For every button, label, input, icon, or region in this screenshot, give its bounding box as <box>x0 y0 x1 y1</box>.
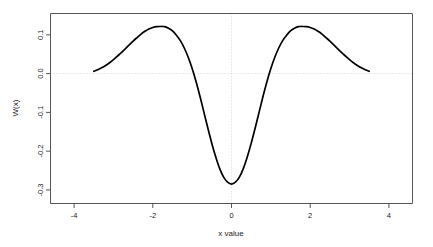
x-axis-title: x value <box>218 229 244 238</box>
chart-container: -4-2024 0.10.0-0.1-0.2-0.3 x value W(x) <box>0 0 433 247</box>
chart-background <box>0 0 433 247</box>
x-tick-label: 2 <box>308 211 312 220</box>
y-tick-label: -0.3 <box>36 183 45 196</box>
y-tick-label: -0.2 <box>36 145 45 158</box>
x-tick-label: 4 <box>387 211 391 220</box>
y-tick-label: -0.1 <box>36 106 45 119</box>
y-tick-label: 0.0 <box>36 68 45 78</box>
line-chart: -4-2024 0.10.0-0.1-0.2-0.3 x value W(x) <box>0 0 433 247</box>
y-tick-label: 0.1 <box>36 30 45 40</box>
y-axis-title: W(x) <box>11 99 20 116</box>
x-tick-label: 0 <box>229 211 233 220</box>
x-tick-label: -4 <box>71 211 78 220</box>
x-tick-label: -2 <box>149 211 156 220</box>
